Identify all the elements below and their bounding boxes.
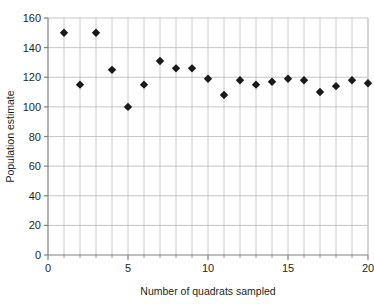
data-point bbox=[204, 75, 212, 83]
data-point bbox=[76, 80, 84, 88]
y-axis-tick-label: 40 bbox=[29, 190, 41, 202]
data-point bbox=[172, 64, 180, 72]
data-point bbox=[188, 64, 196, 72]
x-axis-tick-label: 0 bbox=[45, 262, 51, 274]
data-point bbox=[60, 29, 68, 37]
y-axis-tick-label: 160 bbox=[23, 12, 41, 24]
data-point bbox=[92, 29, 100, 37]
chart-canvas: 02040608010012014016005101520Number of q… bbox=[0, 0, 374, 304]
data-point bbox=[252, 80, 260, 88]
data-point bbox=[140, 80, 148, 88]
x-axis-tick-label: 10 bbox=[202, 262, 214, 274]
data-point bbox=[332, 82, 340, 90]
x-axis-tick-label: 15 bbox=[282, 262, 294, 274]
data-point bbox=[220, 91, 228, 99]
x-axis-tick-label: 5 bbox=[125, 262, 131, 274]
data-point bbox=[108, 66, 116, 74]
data-point bbox=[124, 103, 132, 111]
y-axis-tick-label: 0 bbox=[35, 249, 41, 261]
data-point bbox=[284, 75, 292, 83]
data-point bbox=[316, 88, 324, 96]
y-axis-tick-label: 120 bbox=[23, 71, 41, 83]
y-axis-title: Population estimate bbox=[4, 90, 16, 182]
y-axis-tick-label: 20 bbox=[29, 219, 41, 231]
x-axis-title: Number of quadrats sampled bbox=[140, 285, 276, 297]
data-point bbox=[268, 77, 276, 85]
y-axis-tick-label: 140 bbox=[23, 42, 41, 54]
y-axis-tick-label: 100 bbox=[23, 101, 41, 113]
y-axis-tick-label: 60 bbox=[29, 160, 41, 172]
scatter-chart-figure: 02040608010012014016005101520Number of q… bbox=[0, 0, 374, 304]
data-point bbox=[156, 57, 164, 65]
x-axis-tick-label: 20 bbox=[362, 262, 374, 274]
y-axis-tick-label: 80 bbox=[29, 131, 41, 143]
data-point bbox=[364, 79, 372, 87]
